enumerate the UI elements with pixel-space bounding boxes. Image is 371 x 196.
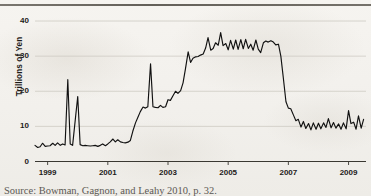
y-tick-label: 0 — [9, 157, 29, 166]
y-tick-label: 20 — [9, 86, 29, 95]
y-tick-label: 40 — [9, 16, 29, 25]
x-tick-label: 2007 — [268, 168, 308, 177]
x-tick-label: 1999 — [28, 168, 68, 177]
x-tick-label: 2005 — [208, 168, 248, 177]
y-axis-title: Trillions of Yen — [15, 19, 24, 115]
x-tick-label: 2009 — [329, 168, 369, 177]
source-caption: Source: Bowman, Gagnon, and Leahy 2010, … — [4, 185, 364, 196]
x-tick-label: 2001 — [88, 168, 128, 177]
data-series-line — [35, 33, 364, 148]
x-tick-label: 2003 — [148, 168, 188, 177]
gridlines-group — [35, 21, 366, 126]
figure-container: Trillions of Yen 010203040 1999200120032… — [0, 0, 371, 196]
y-tick-label: 10 — [9, 121, 29, 130]
y-tick-label: 30 — [9, 51, 29, 60]
plot-area: Trillions of Yen 010203040 1999200120032… — [0, 0, 371, 196]
